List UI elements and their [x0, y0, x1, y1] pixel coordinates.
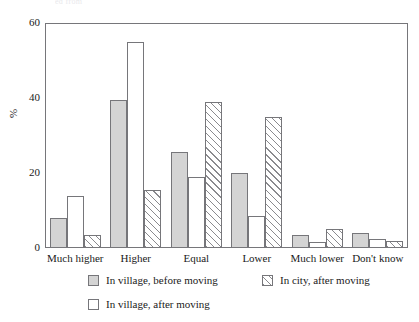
bar [248, 216, 265, 248]
legend-swatch-solid-icon [88, 275, 99, 286]
bar [67, 196, 84, 249]
bar [127, 42, 144, 248]
legend-swatch-open-icon [88, 299, 99, 310]
y-tick-label: 20 [10, 167, 40, 178]
bar [265, 117, 282, 248]
legend-label: In village, before moving [106, 274, 218, 286]
chart-legend: In village, before moving In city, after… [0, 272, 419, 320]
legend-item-in-village-after-moving: In village, after moving [88, 298, 210, 310]
legend-label: In city, after moving [280, 274, 370, 286]
bar [231, 173, 248, 248]
bar [205, 102, 222, 248]
bar [84, 235, 101, 248]
bar [386, 241, 403, 249]
bar-chart-figure: ed from % 0204060 Much higherHigherEqual… [0, 0, 419, 322]
bar [144, 190, 161, 248]
legend-item-in-city-after-moving: In city, after moving [262, 274, 370, 286]
bar [292, 235, 309, 248]
bar [171, 152, 188, 248]
legend-label: In village, after moving [106, 298, 210, 310]
bar [188, 177, 205, 248]
y-tick-label: 40 [10, 92, 40, 103]
legend-item-in-village-before-moving: In village, before moving [88, 274, 218, 286]
bar [50, 218, 67, 248]
bar [309, 242, 326, 248]
bars-layer [45, 23, 408, 248]
bar [352, 233, 369, 248]
clipped-header-text: ed from [55, 0, 175, 6]
y-axis-title: % [8, 109, 19, 118]
y-tick-label: 60 [10, 17, 40, 28]
bar [369, 239, 386, 248]
x-axis-label: Don't know [336, 252, 419, 264]
legend-swatch-hatch-icon [262, 275, 273, 286]
bar [326, 229, 343, 248]
bar [110, 100, 127, 248]
